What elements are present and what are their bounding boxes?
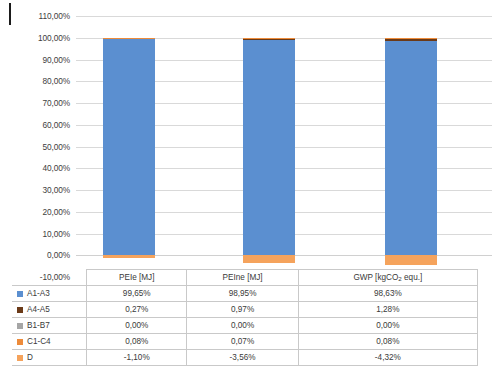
table-cell-value: 0,00% (187, 318, 298, 334)
legend-item-a1-a3[interactable]: A1-A3 (12, 286, 87, 302)
table-cell-value: -3,56% (187, 350, 298, 366)
y-axis-tick-label: 50,00% (8, 142, 70, 152)
table-row: A4-A50,27%0,97%1,28% (12, 302, 478, 318)
legend-swatch-icon (17, 323, 23, 329)
bar-segment-d[interactable] (103, 255, 155, 257)
y-axis-tick-label: 110,00% (8, 11, 70, 21)
y-axis-tick-label: 40,00% (8, 163, 70, 173)
table-cell-value: -4,32% (298, 350, 477, 366)
legend-item-d[interactable]: D (12, 350, 87, 366)
legend-label: C1-C4 (27, 337, 51, 346)
table-row: B1-B70,00%0,00%0,00% (12, 318, 478, 334)
table-cell-value: 98,95% (187, 286, 298, 302)
table-cell-value: 0,08% (298, 334, 477, 350)
y-axis-tick-label: 90,00% (8, 55, 70, 65)
bar-segment-d[interactable] (243, 255, 295, 263)
bar-segment-c1-c4[interactable] (385, 38, 437, 39)
legend-item-b1-b7[interactable]: B1-B7 (12, 318, 87, 334)
table-row: C1-C40,08%0,07%0,08% (12, 334, 478, 350)
bar-segment-d[interactable] (385, 255, 437, 264)
table-cell-value: 0,08% (87, 334, 187, 350)
bar-segment-a1-a3[interactable] (243, 40, 295, 255)
y-axis-tick-label: 30,00% (8, 185, 70, 195)
bar-column[interactable] (103, 0, 155, 281)
y-axis-tick-label: 80,00% (8, 76, 70, 86)
table-corner-cell (12, 270, 87, 286)
bar-segment-c1-c4[interactable] (243, 38, 295, 39)
table-cell-value: 98,63% (298, 286, 477, 302)
y-axis-tick-label: 0,00% (8, 250, 70, 260)
y-axis-tick-label: 10,00% (8, 229, 70, 239)
bar-segment-a1-a3[interactable] (385, 41, 437, 256)
table-cell-value: 0,00% (298, 318, 477, 334)
table-column-header: GWP [kgCO2 equ.] (298, 270, 477, 286)
table-cell-value: 0,07% (187, 334, 298, 350)
table-header-row: PEIe [MJ]PEIne [MJ]GWP [kgCO2 equ.] (12, 270, 478, 286)
y-axis-tick-label: 100,00% (8, 33, 70, 43)
legend-swatch-icon (17, 355, 23, 361)
bar-segment-a1-a3[interactable] (103, 39, 155, 256)
legend-label: A1-A3 (27, 289, 50, 298)
bar-column[interactable] (243, 0, 295, 281)
chart-data-table: PEIe [MJ]PEIne [MJ]GWP [kgCO2 equ.]A1-A3… (12, 269, 478, 366)
table-cell-value: -1,10% (87, 350, 187, 366)
y-axis-tick-label: 70,00% (8, 98, 70, 108)
table-column-header: PEIne [MJ] (187, 270, 298, 286)
table-cell-value: 0,27% (87, 302, 187, 318)
legend-label: D (27, 353, 33, 362)
bar-column[interactable] (385, 0, 437, 281)
stacked-column-chart: 110,00%100,00%90,00%80,00%70,00%60,00%50… (0, 0, 501, 270)
gwp-subscript: 2 (398, 275, 401, 282)
legend-label: B1-B7 (27, 321, 50, 330)
table-cell-value: 99,65% (87, 286, 187, 302)
table-cell-value: 0,00% (87, 318, 187, 334)
bar-segment-c1-c4[interactable] (103, 38, 155, 39)
table-cell-value: 1,28% (298, 302, 477, 318)
legend-label: A4-A5 (27, 305, 50, 314)
table-cell-value: 0,97% (187, 302, 298, 318)
legend-item-c1-c4[interactable]: C1-C4 (12, 334, 87, 350)
legend-item-a4-a5[interactable]: A4-A5 (12, 302, 87, 318)
table-row: A1-A399,65%98,95%98,63% (12, 286, 478, 302)
table-column-header: PEIe [MJ] (87, 270, 187, 286)
legend-swatch-icon (17, 339, 23, 345)
y-axis-tick-label: 20,00% (8, 207, 70, 217)
table-row: D-1,10%-3,56%-4,32% (12, 350, 478, 366)
legend-swatch-icon (17, 291, 23, 297)
legend-swatch-icon (17, 307, 23, 313)
y-axis-tick-label: 60,00% (8, 120, 70, 130)
